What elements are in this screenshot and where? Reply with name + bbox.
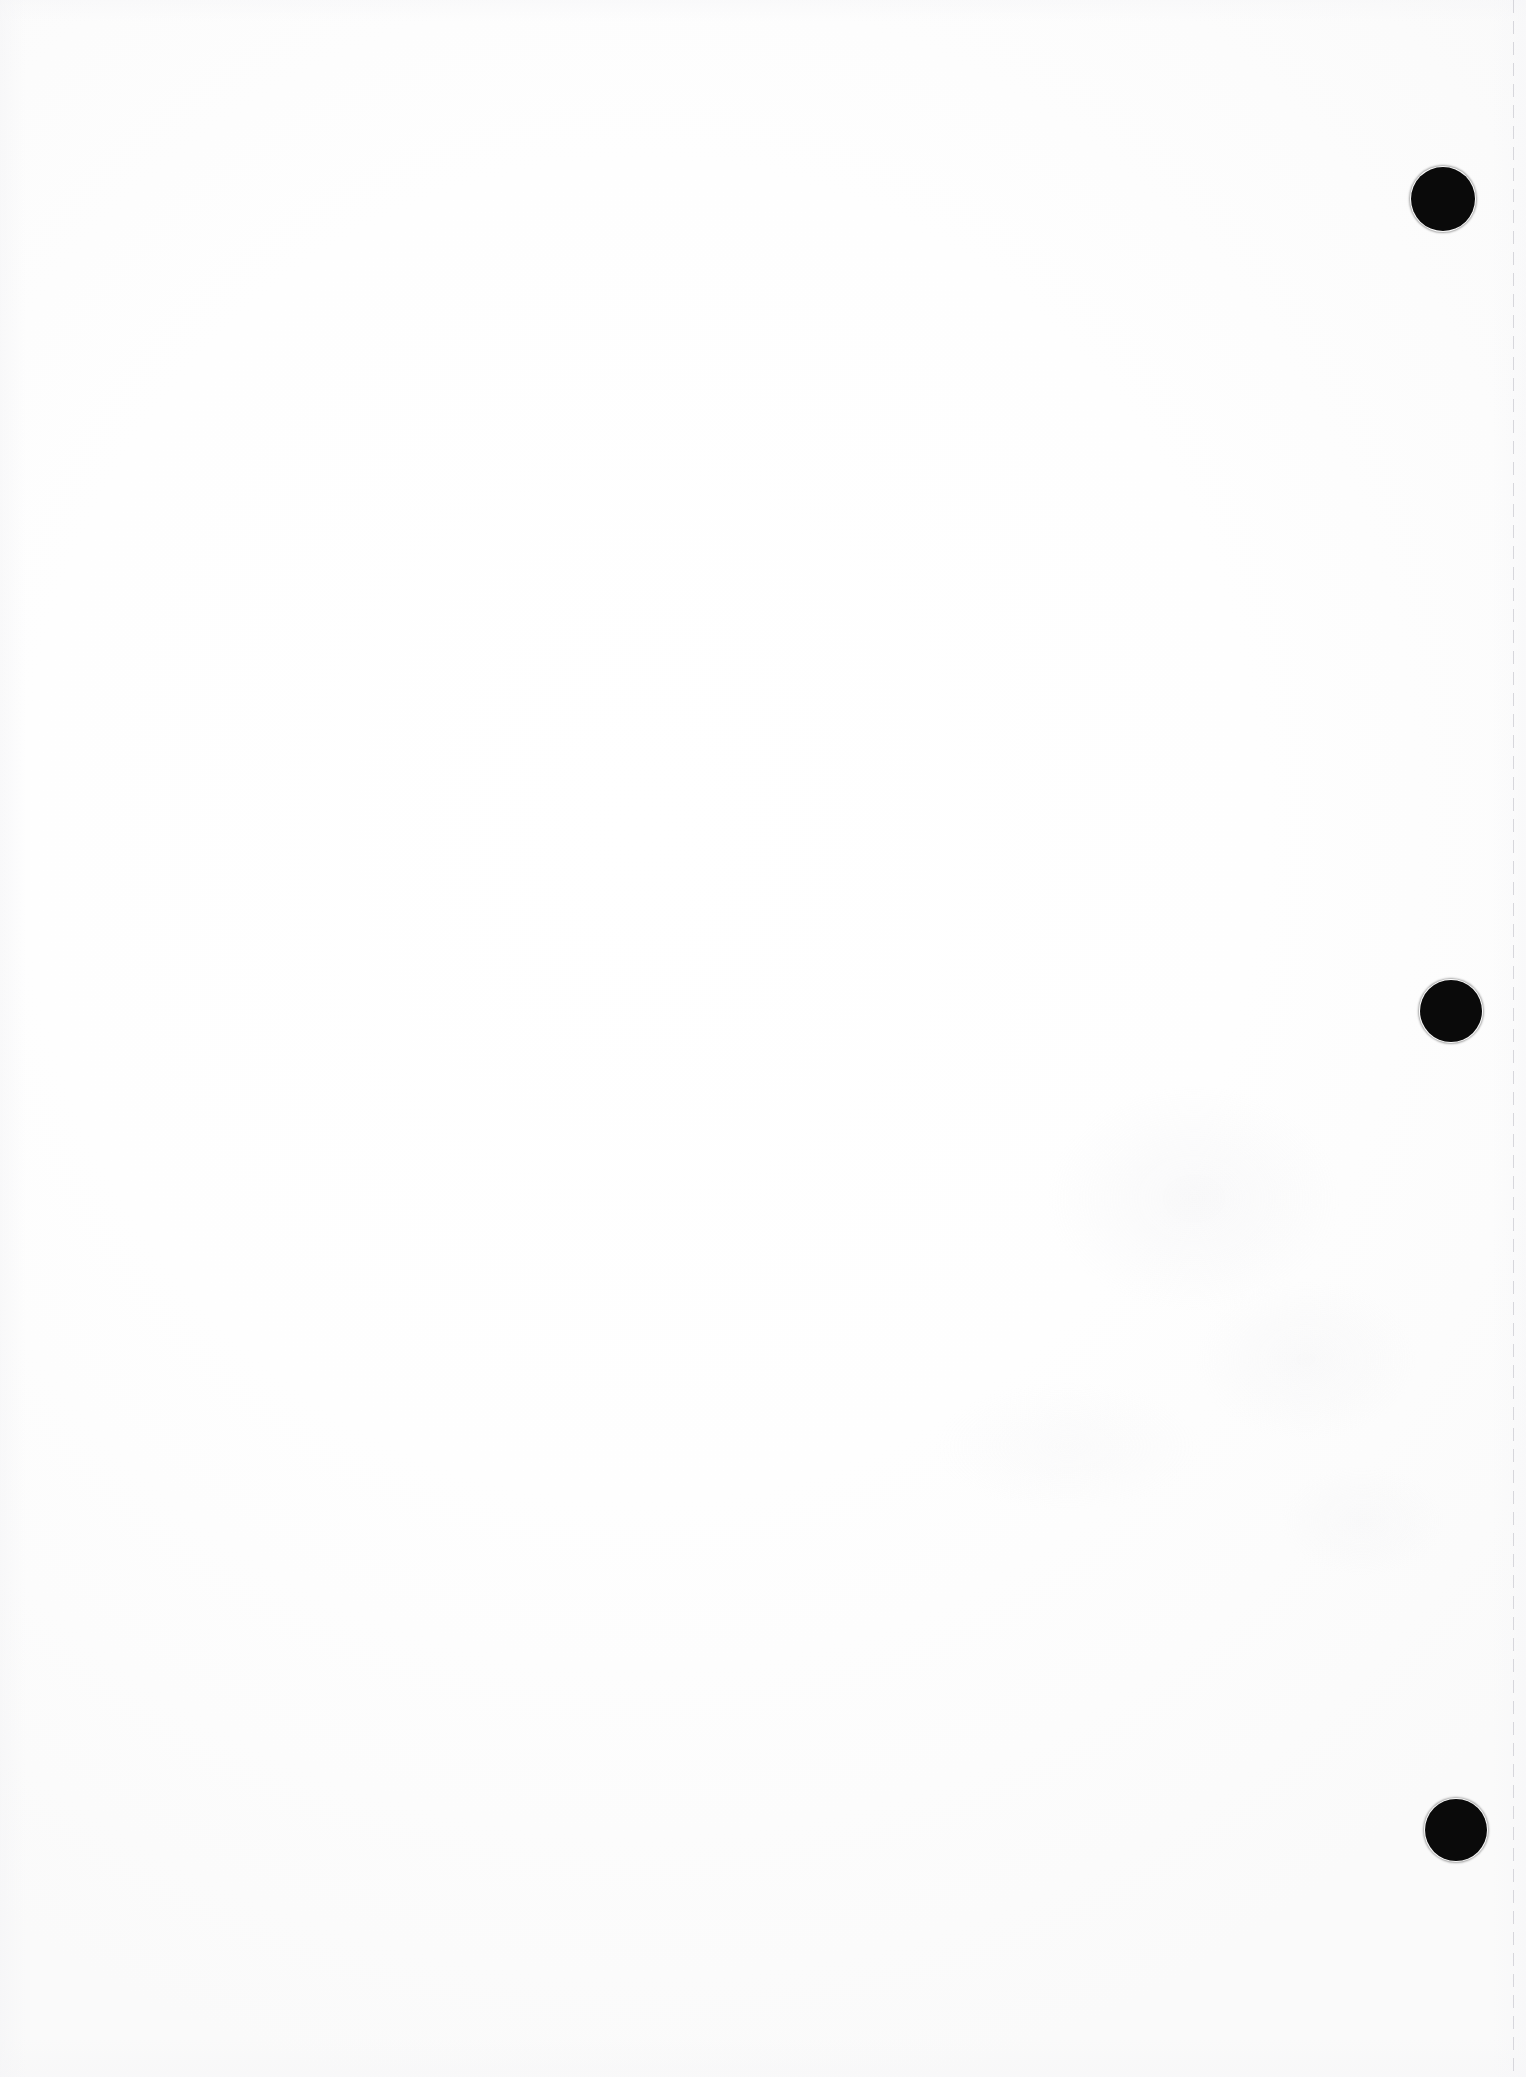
punch-hole-top bbox=[1411, 167, 1475, 231]
punch-hole-bottom bbox=[1425, 1799, 1487, 1861]
scanned-page-canvas bbox=[0, 0, 1526, 2077]
three-ring-punch-hole-layer bbox=[0, 0, 1526, 2077]
punch-hole-middle bbox=[1420, 980, 1482, 1042]
